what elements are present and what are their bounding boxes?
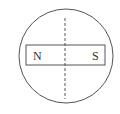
north-pole-label: N xyxy=(33,49,42,63)
magnet-diagram: N S xyxy=(0,0,120,114)
south-pole-label: S xyxy=(92,49,99,63)
